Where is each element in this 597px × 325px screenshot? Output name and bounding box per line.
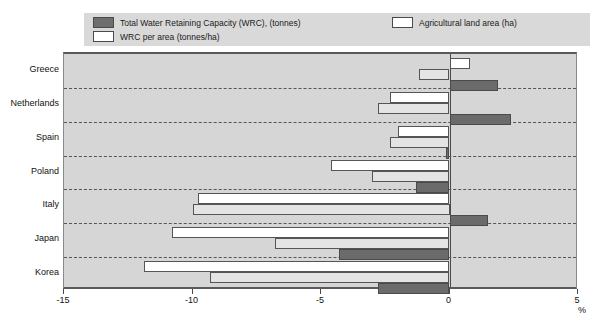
bar-italy-agri xyxy=(198,193,450,204)
dark-swatch-icon xyxy=(93,17,114,28)
bar-korea-agri xyxy=(144,261,450,272)
bar-japan-perarea xyxy=(275,238,450,249)
axis-unit-label: % xyxy=(578,305,586,315)
bar-japan-agri xyxy=(172,227,450,238)
legend-label-agri: Agricultural land area (ha) xyxy=(419,18,517,28)
bar-poland-perarea xyxy=(372,171,449,182)
x-tick xyxy=(577,289,578,294)
bar-greece-agri xyxy=(450,58,471,69)
x-tick-label: -5 xyxy=(316,295,324,305)
x-tick xyxy=(63,289,64,294)
legend-item-perarea: WRC per area (tonnes/ha) xyxy=(93,31,220,42)
y-axis-label-poland: Poland xyxy=(3,166,59,176)
chart-screenshot: Total Water Retaining Capacity (WRC), (t… xyxy=(0,0,597,325)
y-axis-label-greece: Greece xyxy=(3,64,59,74)
bar-japan-total xyxy=(339,249,450,260)
y-axis-label-japan: Japan xyxy=(3,233,59,243)
x-tick-label: 0 xyxy=(446,295,451,305)
group-separator xyxy=(64,156,576,157)
bar-netherlands-agri xyxy=(390,92,449,103)
x-tick-label: -15 xyxy=(56,295,69,305)
bar-greece-total xyxy=(450,80,499,91)
y-axis-label-korea: Korea xyxy=(3,267,59,277)
bar-italy-total xyxy=(450,215,489,226)
bar-spain-total xyxy=(446,148,450,159)
legend-item-total: Total Water Retaining Capacity (WRC), (t… xyxy=(93,17,301,28)
y-axis-label-spain: Spain xyxy=(3,132,59,142)
x-axis: -15-10-505 xyxy=(63,289,577,319)
plot-frame xyxy=(63,52,577,289)
chart-legend: Total Water Retaining Capacity (WRC), (t… xyxy=(84,13,590,46)
white-swatch-icon xyxy=(93,31,114,42)
x-tick xyxy=(192,289,193,294)
bar-netherlands-total xyxy=(450,114,512,125)
bar-greece-perarea xyxy=(419,69,450,80)
bar-italy-perarea xyxy=(193,204,450,215)
bar-korea-total xyxy=(378,283,450,294)
legend-label-total: Total Water Retaining Capacity (WRC), (t… xyxy=(120,18,301,28)
bar-spain-perarea xyxy=(390,137,449,148)
group-separator xyxy=(64,223,576,224)
group-separator xyxy=(64,189,576,190)
legend-label-perarea: WRC per area (tonnes/ha) xyxy=(120,32,220,42)
white-swatch-icon xyxy=(392,17,413,28)
bar-poland-total xyxy=(416,182,449,193)
y-axis-label-netherlands: Netherlands xyxy=(3,98,59,108)
bar-netherlands-perarea xyxy=(378,103,450,114)
bar-spain-agri xyxy=(398,126,449,137)
legend-item-agri: Agricultural land area (ha) xyxy=(392,17,517,28)
y-axis-label-italy: Italy xyxy=(3,199,59,209)
x-tick-label: -10 xyxy=(185,295,198,305)
x-tick-label: 5 xyxy=(574,295,579,305)
plot-area xyxy=(64,54,576,287)
x-tick xyxy=(320,289,321,294)
bar-korea-perarea xyxy=(210,272,449,283)
y-axis-labels: GreeceNetherlandsSpainPolandItalyJapanKo… xyxy=(0,52,59,289)
group-separator xyxy=(64,88,576,89)
group-separator xyxy=(64,257,576,258)
bar-poland-agri xyxy=(331,160,449,171)
